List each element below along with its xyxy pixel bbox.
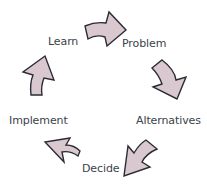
step-label-implement: Implement [9,114,68,127]
step-label-decide: Decide [82,162,120,175]
arrow-problem-to-alternatives-icon [152,60,186,99]
cycle-diagram: Learn Problem Alternatives Decide Implem… [0,0,207,188]
step-label-learn: Learn [48,35,78,48]
arrow-alternatives-to-decide-icon [124,140,157,176]
diagram-canvas [0,0,207,188]
arrow-decide-to-implement-icon [45,138,80,162]
step-label-problem: Problem [122,37,166,50]
arrow-implement-to-learn-icon [23,56,54,95]
step-label-alternatives: Alternatives [136,114,201,127]
arrow-learn-to-problem-icon [85,12,126,46]
